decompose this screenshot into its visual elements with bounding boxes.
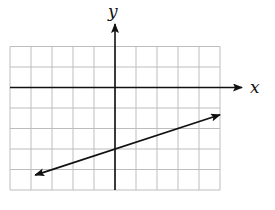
line-series: [35, 115, 220, 175]
y-axis-label: y: [107, 1, 118, 21]
axes: [10, 24, 242, 190]
x-axis-label: x: [250, 77, 260, 97]
coordinate-plane: x y: [0, 0, 275, 210]
plotted-line: [35, 115, 220, 175]
